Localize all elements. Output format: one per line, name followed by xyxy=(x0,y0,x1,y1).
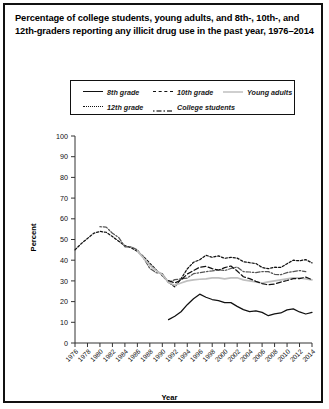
chart-legend: 8th grade 10th grade Young adults 12th g… xyxy=(70,80,295,115)
legend-label-10th-grade: 10th grade xyxy=(177,88,213,97)
legend-label-college-students: College students xyxy=(177,103,235,112)
y-axis-label: Percent xyxy=(29,208,38,268)
legend-row-1: 8th grade 10th grade Young adults xyxy=(71,85,294,99)
chart-frame: Percentage of college students, young ad… xyxy=(3,3,323,403)
legend-label-young-adults: Young adults xyxy=(247,88,292,97)
legend-item-college-students[interactable]: College students xyxy=(153,100,235,114)
legend-label-12th-grade: 12th grade xyxy=(107,103,143,112)
legend-swatch-young-adults xyxy=(223,87,243,97)
legend-item-12th-grade[interactable]: 12th grade xyxy=(83,100,143,114)
legend-swatch-8th-grade xyxy=(83,87,103,97)
legend-swatch-12th-grade xyxy=(83,102,103,112)
legend-row-2: 12th grade College students xyxy=(71,100,294,114)
chart-title: Percentage of college students, young ad… xyxy=(15,12,315,37)
dash-dot-swatch-icon xyxy=(153,106,173,116)
legend-item-8th-grade[interactable]: 8th grade xyxy=(83,85,139,99)
x-axis-label: Year xyxy=(5,393,329,402)
legend-item-young-adults[interactable]: Young adults xyxy=(223,85,292,99)
legend-item-10th-grade[interactable]: 10th grade xyxy=(153,85,213,99)
legend-swatch-10th-grade xyxy=(153,87,173,97)
legend-swatch-college-students xyxy=(153,102,173,112)
legend-label-8th-grade: 8th grade xyxy=(107,88,139,97)
